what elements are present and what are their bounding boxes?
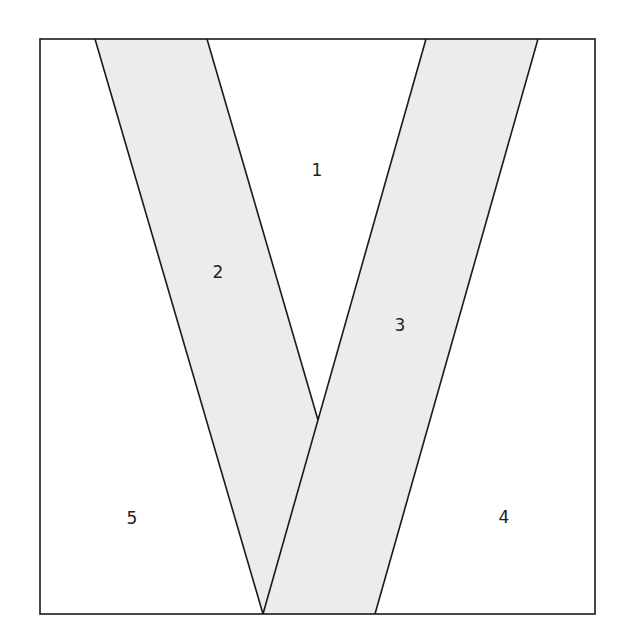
region-label-2: 2 [213, 262, 224, 282]
region-label-5: 5 [127, 508, 138, 528]
v-stripe-diagram: 1 2 3 4 5 [0, 0, 634, 640]
region-label-4: 4 [499, 507, 510, 527]
region-label-1: 1 [312, 160, 323, 180]
region-label-3: 3 [395, 315, 406, 335]
